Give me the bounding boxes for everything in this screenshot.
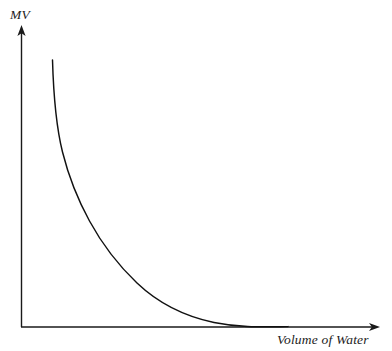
chart-canvas <box>0 0 392 351</box>
chart-figure: MV Volume of Water <box>0 0 392 351</box>
mv-curve <box>53 60 289 327</box>
y-axis-label: MV <box>10 8 30 22</box>
x-axis-label: Volume of Water <box>277 333 369 347</box>
